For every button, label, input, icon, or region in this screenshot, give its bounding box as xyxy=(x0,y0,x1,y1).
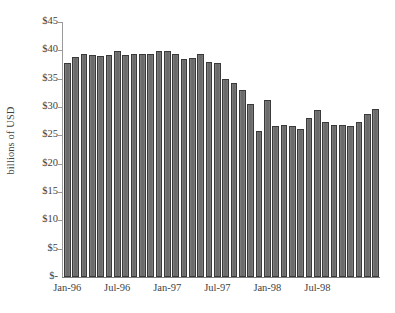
x-axis-tick-label: Jan-98 xyxy=(253,282,281,295)
y-axis-tick-label: $- xyxy=(24,271,58,282)
y-axis-tick-mark xyxy=(58,135,62,136)
x-axis-tick-label: Jul-98 xyxy=(304,282,330,295)
y-axis-tick-mark xyxy=(58,249,62,250)
bar xyxy=(364,114,371,277)
bar xyxy=(247,104,254,277)
y-axis-tick-mark xyxy=(58,220,62,221)
bar xyxy=(89,55,96,277)
bar xyxy=(197,54,204,277)
bar xyxy=(297,129,304,277)
bar xyxy=(139,54,146,277)
x-axis-line xyxy=(62,277,380,278)
bar xyxy=(147,54,154,277)
bar xyxy=(164,51,171,277)
bar xyxy=(256,131,263,277)
y-axis-tick-mark xyxy=(58,192,62,193)
bar xyxy=(72,57,79,277)
bar xyxy=(181,59,188,277)
y-axis-tick-label: $35 xyxy=(24,73,58,84)
plot-area xyxy=(63,22,380,277)
bar xyxy=(81,54,88,277)
x-axis-tick-label: Jan-97 xyxy=(153,282,181,295)
bar xyxy=(272,126,279,277)
y-axis-tick-label: $40 xyxy=(24,44,58,55)
x-axis-tick-label: Jul-96 xyxy=(104,282,130,295)
y-axis-tick-mark xyxy=(58,79,62,80)
bar xyxy=(64,63,71,277)
x-axis-tick-labels: Jan-96Jul-96Jan-97Jul-97Jan-98Jul-98 xyxy=(0,282,395,302)
bar xyxy=(347,126,354,277)
bar xyxy=(222,79,229,277)
y-axis-tick-label: $10 xyxy=(24,214,58,225)
bar xyxy=(322,122,329,277)
bar xyxy=(331,125,338,277)
bar xyxy=(172,54,179,277)
y-axis-tick-labels: $-$5$10$15$20$25$30$35$40$45 xyxy=(20,0,58,313)
bar xyxy=(97,56,104,277)
y-axis-tick-label: $25 xyxy=(24,129,58,140)
bar xyxy=(356,122,363,277)
x-axis-tick-label: Jul-97 xyxy=(204,282,230,295)
bar xyxy=(214,63,221,277)
y-axis-tick-mark xyxy=(58,164,62,165)
bar xyxy=(239,90,246,277)
bar xyxy=(306,118,313,277)
y-axis-tick-label: $30 xyxy=(24,101,58,112)
bar xyxy=(122,55,129,277)
bar xyxy=(231,83,238,277)
bar xyxy=(106,55,113,277)
y-axis-tick-mark xyxy=(58,107,62,108)
y-axis-tick-label: $20 xyxy=(24,158,58,169)
y-axis-tick-label: $45 xyxy=(24,16,58,27)
y-axis-tick-mark xyxy=(58,50,62,51)
bar xyxy=(289,126,296,277)
bar xyxy=(131,54,138,277)
bar xyxy=(314,110,321,277)
bar xyxy=(264,100,271,277)
bar xyxy=(372,109,379,277)
y-axis-title-label: billions of USD xyxy=(5,106,16,174)
bar-chart: billions of USD $-$5$10$15$20$25$30$35$4… xyxy=(0,0,395,313)
bar xyxy=(189,58,196,277)
bar xyxy=(156,51,163,277)
y-axis-title: billions of USD xyxy=(0,0,20,280)
bar xyxy=(339,125,346,277)
y-axis-tick-label: $15 xyxy=(24,186,58,197)
bar xyxy=(206,62,213,277)
bar xyxy=(281,125,288,277)
y-axis-tick-label: $5 xyxy=(24,243,58,254)
bar xyxy=(114,51,121,277)
x-axis-tick-label: Jan-96 xyxy=(53,282,81,295)
y-axis-tick-mark xyxy=(58,22,62,23)
